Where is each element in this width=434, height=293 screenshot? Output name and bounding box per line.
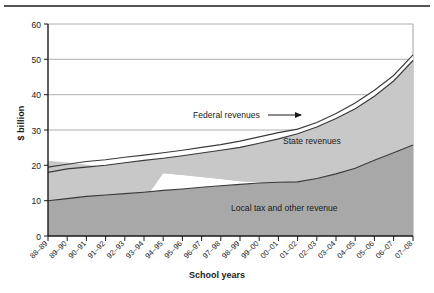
x-tick-label-4: 92–93 bbox=[105, 239, 126, 260]
y-tick-label-20: 20 bbox=[32, 161, 42, 171]
figure-container: 60 50 40 30 20 10 0 bbox=[0, 0, 434, 293]
x-tick-label-19: 07–08 bbox=[393, 239, 414, 260]
x-tick-label-18: 06–07 bbox=[374, 239, 395, 260]
x-tick-label-9: 97–98 bbox=[201, 239, 222, 260]
federal-revenues-annotation-label: Federal revenues bbox=[193, 110, 260, 120]
x-axis-ticks bbox=[48, 236, 413, 241]
x-tick-label-1: 89–90 bbox=[47, 239, 68, 260]
x-tick-label-8: 96–97 bbox=[182, 239, 203, 260]
x-tick-label-16: 04–05 bbox=[335, 239, 356, 260]
y-tick-label-50: 50 bbox=[32, 55, 42, 65]
x-tick-label-14: 02–03 bbox=[297, 239, 318, 260]
x-axis-tick-labels: 88–89 89–90 90–91 91–92 92–93 93–94 94–9… bbox=[28, 239, 414, 260]
y-tick-label-10: 10 bbox=[32, 196, 42, 206]
state-revenues-annotation-label: State revenues bbox=[283, 136, 341, 146]
x-axis-title: School years bbox=[0, 270, 434, 280]
x-tick-label-13: 01–02 bbox=[278, 239, 299, 260]
x-tick-label-3: 91–92 bbox=[86, 239, 107, 260]
y-tick-label-0: 0 bbox=[36, 232, 41, 242]
x-tick-label-11: 99–00 bbox=[239, 239, 260, 260]
y-tick-label-60: 60 bbox=[32, 20, 42, 30]
x-tick-label-6: 94–95 bbox=[143, 239, 164, 260]
x-tick-label-2: 90–91 bbox=[67, 239, 88, 260]
x-tick-label-7: 95–96 bbox=[163, 239, 184, 260]
x-tick-label-15: 03–04 bbox=[316, 239, 337, 260]
x-tick-label-17: 05–06 bbox=[355, 239, 376, 260]
x-tick-label-0: 88–89 bbox=[28, 239, 49, 260]
x-tick-label-5: 93–94 bbox=[124, 239, 145, 260]
local-tax-annotation-label: Local tax and other revenue bbox=[231, 203, 338, 213]
x-tick-label-10: 98–99 bbox=[220, 239, 241, 260]
y-tick-label-40: 40 bbox=[32, 90, 42, 100]
y-tick-label-30: 30 bbox=[32, 126, 42, 136]
stacked-area-chart: 60 50 40 30 20 10 0 bbox=[0, 0, 434, 293]
y-axis-title: $ billion bbox=[16, 83, 26, 163]
x-tick-label-12: 00–01 bbox=[259, 239, 280, 260]
